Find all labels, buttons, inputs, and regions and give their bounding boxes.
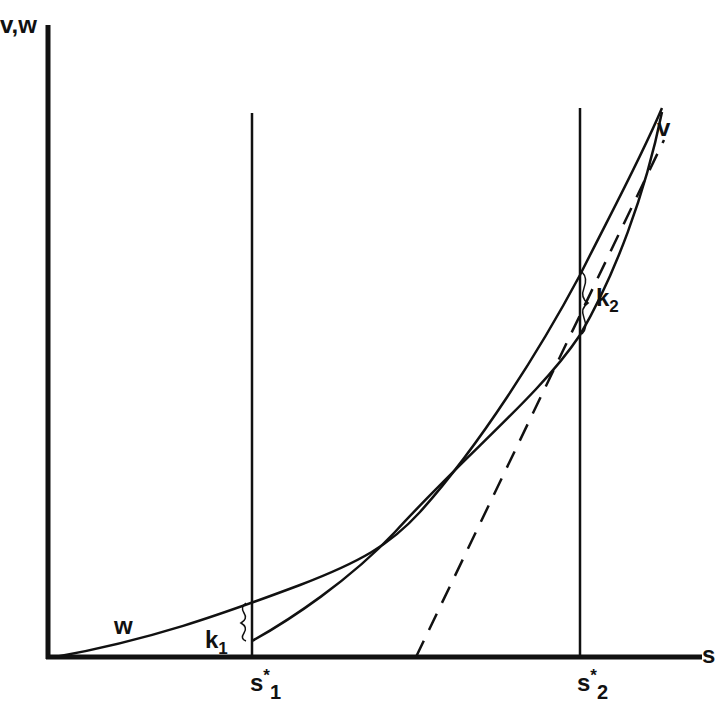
tangent-dashed-line [416,140,664,657]
curve-v-label: v [657,114,671,141]
curve-w-label: w [113,612,133,639]
s2-label: s*2 [577,666,608,703]
diagram-canvas: v,w s w v k1 k2 s*1 s*2 [0,0,726,707]
curve-v [252,112,662,641]
k2-base: k [596,284,610,311]
s2-base: s [577,669,590,696]
k2-label: k2 [596,284,619,316]
k2-sub: 2 [609,297,618,316]
k1-base: k [205,626,219,653]
brace-k1 [241,603,246,641]
x-axis-label: s [702,641,715,668]
y-axis-label: v,w [0,11,37,38]
k1-sub: 1 [218,639,227,658]
k1-label: k1 [205,626,228,658]
s1-base: s [250,669,263,696]
s1-sub: 1 [270,681,281,703]
s1-label: s*1 [250,666,281,703]
curve-w [55,108,662,657]
s2-sub: 2 [597,681,608,703]
